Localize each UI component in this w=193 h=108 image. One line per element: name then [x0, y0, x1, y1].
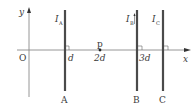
wire-b-name: B [133, 95, 140, 105]
wire-c: I C C [151, 10, 168, 105]
right-angle-marker-a [66, 46, 69, 50]
right-angle-marker-c [164, 46, 168, 50]
x-axis-label: x [183, 54, 188, 64]
y-axis-arrow-icon [27, 7, 31, 13]
wire-a-current-sub: A [58, 20, 63, 26]
wire-a: I A d A [54, 10, 74, 105]
wire-a-name: A [60, 95, 68, 105]
wire-diagram: y x O I A d A p 2d I B 3d B I C C [0, 0, 193, 108]
wire-b-current-sub: B [130, 20, 134, 26]
wire-b-position-label: 3d [139, 53, 151, 63]
point-p-label: p [97, 39, 103, 49]
current-arrow-head-b-icon [134, 13, 136, 16]
wire-c-name: C [159, 95, 166, 105]
wire-a-position-label: d [68, 53, 74, 63]
x-axis-arrow-icon [184, 48, 191, 52]
origin-label: O [19, 53, 26, 63]
wire-c-current-sub: C [156, 20, 160, 26]
point-p-position-label: 2d [93, 53, 106, 63]
right-angle-marker-b [138, 46, 142, 50]
point-p: p 2d [93, 39, 106, 63]
wire-b: I B 3d B [125, 10, 151, 105]
y-axis: y [18, 7, 31, 97]
y-axis-label: y [18, 7, 25, 17]
